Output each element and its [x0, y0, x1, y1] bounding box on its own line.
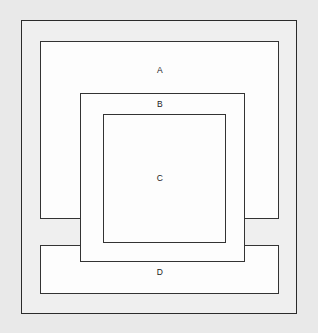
rectangle-a-label: A — [150, 66, 170, 75]
diagram-canvas: A B C D — [0, 0, 318, 333]
rectangle-b-label: B — [150, 100, 170, 109]
rectangle-c-label: C — [150, 174, 170, 183]
rectangle-d-label: D — [150, 268, 170, 277]
